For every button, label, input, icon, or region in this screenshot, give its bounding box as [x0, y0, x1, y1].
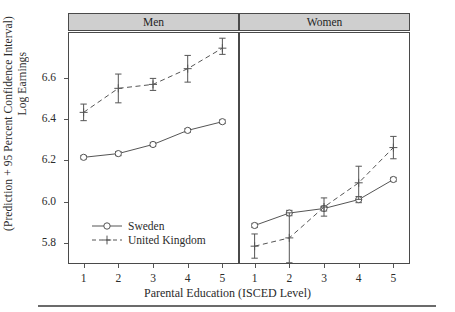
- x-axis-title: Parental Education (ISCED Level): [0, 286, 455, 301]
- y-tick-label: 6.2: [30, 154, 56, 166]
- figure-panel: Log Earnings (Prediction + 95 Percent Co…: [0, 0, 455, 312]
- y-tick-mark: [64, 243, 68, 244]
- y-tick-label: 6.0: [30, 196, 56, 208]
- x-tick-label: 5: [385, 273, 401, 285]
- x-tick-label: 1: [247, 273, 263, 285]
- panel-header-women-label: Women: [307, 16, 342, 28]
- legend-label-united-kingdom: United Kingdom: [127, 233, 206, 247]
- x-tick-label: 3: [145, 273, 161, 285]
- x-tick-mark: [359, 264, 360, 268]
- x-tick-label: 5: [214, 273, 230, 285]
- y-axis-title-line-1: Log Earnings: [16, 52, 28, 115]
- x-tick-label: 4: [351, 273, 367, 285]
- y-axis-title-line-2: (Prediction + 95 Percent Confidence Inte…: [2, 16, 14, 231]
- panel-header-men: Men: [68, 13, 239, 31]
- x-tick-mark: [255, 264, 256, 268]
- y-tick-mark: [64, 160, 68, 161]
- y-tick-mark: [64, 202, 68, 203]
- y-axis-title: Log Earnings (Prediction + 95 Percent Co…: [0, 0, 34, 265]
- x-tick-mark: [84, 264, 85, 268]
- x-tick-mark: [118, 264, 119, 268]
- x-tick-mark: [324, 264, 325, 268]
- legend-item-united-kingdom: United Kingdom: [92, 233, 206, 247]
- legend-key-sweden: [92, 219, 122, 233]
- x-tick-label: 2: [110, 273, 126, 285]
- x-tick-mark: [222, 264, 223, 268]
- y-tick-label: 5.8: [30, 237, 56, 249]
- y-tick-mark: [64, 119, 68, 120]
- panel-header-women: Women: [239, 13, 410, 31]
- x-tick-mark: [289, 264, 290, 268]
- x-tick-label: 4: [180, 273, 196, 285]
- y-tick-label: 6.4: [30, 113, 56, 125]
- x-tick-mark: [153, 264, 154, 268]
- legend-key-united-kingdom: [92, 233, 122, 247]
- x-tick-label: 2: [281, 273, 297, 285]
- x-tick-mark: [393, 264, 394, 268]
- plot-area-women: [239, 32, 410, 264]
- x-tick-label: 1: [76, 273, 92, 285]
- legend-item-sweden: Sweden: [92, 219, 206, 233]
- panel-header-men-label: Men: [143, 16, 164, 28]
- x-tick-mark: [188, 264, 189, 268]
- y-tick-label: 6.6: [30, 72, 56, 84]
- x-tick-label: 3: [316, 273, 332, 285]
- legend-label-sweden: Sweden: [127, 219, 164, 233]
- legend: Sweden United Kingdom: [92, 219, 206, 247]
- y-tick-mark: [64, 78, 68, 79]
- footer-rule: [38, 305, 436, 307]
